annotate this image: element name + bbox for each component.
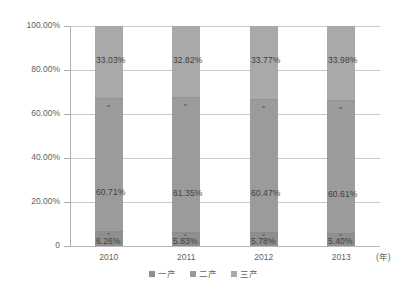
data-label-secondary-industry: 60.71% <box>96 187 125 197</box>
y-axis-tick <box>64 246 70 247</box>
scan-speck <box>107 105 110 107</box>
y-axis-tick <box>64 26 70 27</box>
data-label-tertiary-industry: 33.03% <box>96 55 125 65</box>
y-axis-tick <box>64 114 70 115</box>
segment-separator <box>250 99 278 100</box>
data-label-primary-industry: 5.40% <box>328 236 353 246</box>
y-axis-tick <box>64 158 70 159</box>
legend-swatch-icon <box>190 271 196 277</box>
x-axis-unit-label: (年) <box>376 252 391 262</box>
y-axis-tick-label: 100.00% <box>4 21 60 30</box>
legend-swatch-icon <box>231 271 237 277</box>
y-axis-line <box>70 26 71 247</box>
scan-speck <box>339 107 342 109</box>
y-axis-tick <box>64 202 70 203</box>
legend-item[interactable]: 一产 <box>149 269 176 279</box>
scan-speck <box>107 233 110 235</box>
x-axis-tick-label: 2011 <box>156 252 216 262</box>
x-axis-tick-label: 2012 <box>234 252 294 262</box>
data-label-secondary-industry: 60.61% <box>328 189 357 199</box>
legend-item-label: 三产 <box>240 269 258 279</box>
segment-separator <box>95 231 123 232</box>
y-axis-tick-label: 0 <box>4 241 60 250</box>
legend-item[interactable]: 二产 <box>190 269 217 279</box>
legend-item[interactable]: 三产 <box>231 269 258 279</box>
x-axis-tick-label: 2010 <box>79 252 139 262</box>
data-label-primary-industry: 6.26% <box>96 236 121 246</box>
y-axis-tick <box>64 70 70 71</box>
bar-segment-secondary-industry <box>327 101 355 234</box>
x-axis-tick-label: 2013 <box>311 252 371 262</box>
stacked-column-chart: 33.03%60.71%6.26%32.82%61.35%5.83%33.77%… <box>0 0 406 299</box>
y-axis-tick-label: 40.00% <box>4 153 60 162</box>
segment-separator <box>95 98 123 99</box>
data-label-primary-industry: 5.78% <box>251 236 276 246</box>
bar-segment-secondary-industry <box>250 100 278 233</box>
bar-segment-secondary-industry <box>95 99 123 233</box>
chart-legend: 一产二产三产 <box>0 269 406 279</box>
y-axis-tick-label: 80.00% <box>4 65 60 74</box>
data-label-secondary-industry: 61.35% <box>173 188 202 198</box>
scan-speck <box>184 104 187 106</box>
bar-segment-secondary-industry <box>172 98 200 233</box>
y-axis-tick-label: 60.00% <box>4 109 60 118</box>
y-axis-tick-label: 20.00% <box>4 197 60 206</box>
data-label-tertiary-industry: 32.82% <box>173 55 202 65</box>
data-label-tertiary-industry: 33.77% <box>251 55 280 65</box>
legend-item-label: 二产 <box>199 269 217 279</box>
data-label-primary-industry: 5.83% <box>173 236 198 246</box>
segment-separator <box>327 100 355 101</box>
legend-item-label: 一产 <box>158 269 176 279</box>
data-label-secondary-industry: 60.47% <box>251 188 280 198</box>
data-label-tertiary-industry: 33.98% <box>328 55 357 65</box>
segment-separator <box>172 97 200 98</box>
scan-speck <box>262 106 265 108</box>
plot-area: 33.03%60.71%6.26%32.82%61.35%5.83%33.77%… <box>70 26 380 246</box>
gridline <box>70 246 380 247</box>
legend-swatch-icon <box>149 271 155 277</box>
